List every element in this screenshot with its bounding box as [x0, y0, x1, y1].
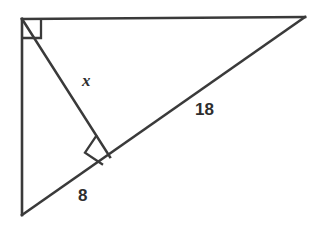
label-altitude: x — [81, 71, 91, 90]
triangle-top-edge — [22, 17, 305, 19]
triangle-hypotenuse — [22, 17, 305, 215]
label-upper-segment: 18 — [195, 100, 214, 119]
label-lower-segment: 8 — [78, 186, 87, 205]
geometry-figure: x 8 18 — [0, 0, 316, 229]
triangle-diagram-canvas: x 8 18 — [0, 0, 316, 229]
